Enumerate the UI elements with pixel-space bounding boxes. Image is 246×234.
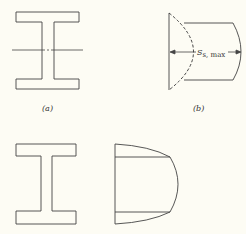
panel-b-annotation: Ss, max xyxy=(197,48,225,59)
panel-a-ibeam xyxy=(16,12,79,89)
panel-c-ibeam xyxy=(16,144,76,224)
panel-d-distribution xyxy=(115,144,178,224)
panel-a-label: (a) xyxy=(42,104,53,113)
figure-canvas: (a) Ss, max (b) xyxy=(0,0,246,234)
panel-b-label: (b) xyxy=(193,104,204,113)
